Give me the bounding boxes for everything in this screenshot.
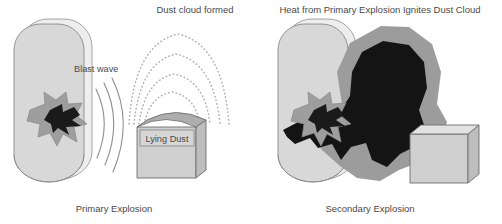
empty-box-top (410, 125, 479, 134)
empty-box-right (410, 125, 479, 183)
ignites-dust-cloud-heading: Heat from Primary Explosion Ignites Dust… (279, 4, 480, 15)
secondary-explosion-caption: Secondary Explosion (325, 203, 414, 214)
primary-explosion-caption: Primary Explosion (76, 203, 153, 214)
dust-explosion-diagram: Dust cloud formed Blast wave (0, 0, 502, 224)
diagram-canvas: Dust cloud formed Blast wave (0, 0, 502, 224)
empty-box-front (410, 134, 468, 183)
blast-wave-label: Blast wave (74, 64, 118, 74)
lying-dust-label: Lying Dust (145, 134, 189, 144)
empty-box-side (468, 125, 479, 183)
lying-dust-box-side (196, 120, 206, 178)
dust-cloud-formed-heading: Dust cloud formed (156, 4, 233, 15)
